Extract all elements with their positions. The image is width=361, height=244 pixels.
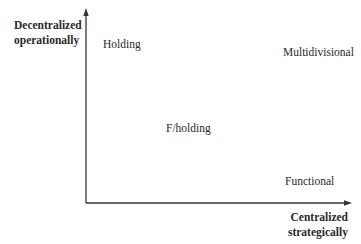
x-axis (86, 200, 352, 205)
x-axis-label-line1: Centralized (288, 210, 348, 225)
item-f-holding: F/holding (166, 121, 211, 135)
item-multidivisional: Multidivisional (283, 45, 354, 59)
y-axis-label-line1: Decentralized (14, 18, 82, 33)
x-axis-label: Centralized strategically (288, 210, 348, 240)
x-axis-arrowhead-icon (344, 200, 352, 205)
x-axis-label-line2: strategically (288, 225, 348, 240)
y-axis-label: Decentralized operationally (14, 18, 82, 48)
item-functional: Functional (285, 174, 334, 188)
y-axis (83, 8, 88, 203)
item-holding: Holding (103, 37, 141, 51)
y-axis-label-line2: operationally (14, 33, 82, 48)
y-axis-arrowhead-icon (83, 8, 88, 16)
